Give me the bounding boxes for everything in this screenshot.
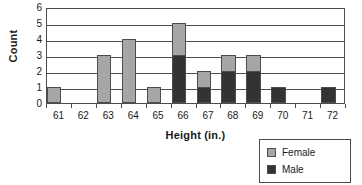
plot-area [46, 8, 345, 104]
bar-slot-62 [72, 9, 97, 103]
bar-slot-64 [122, 9, 147, 103]
x-tick-8 [245, 104, 246, 108]
x-tick-3 [121, 104, 122, 108]
x-axis-tick-labels: 616263646566676869707172 [46, 110, 345, 124]
histogram-chart: Count 0123456 616263646566676869707172 H… [0, 0, 362, 185]
y-tick-label-0: 0 [26, 99, 42, 109]
legend-item-female[interactable]: Female [267, 144, 350, 161]
chart-legend: FemaleMale [259, 139, 351, 183]
y-tick-label-4: 4 [26, 35, 42, 45]
bar-slot-63 [97, 9, 122, 103]
x-tick-12 [345, 104, 346, 108]
bar-segment-64-female [122, 39, 136, 103]
bar-segment-70-male [271, 87, 285, 103]
x-tick-2 [96, 104, 97, 108]
bar-68 [221, 55, 235, 103]
bar-slot-69 [246, 9, 271, 103]
x-tick-9 [270, 104, 271, 108]
bar-segment-69-male [246, 71, 260, 103]
bar-61 [47, 87, 61, 103]
x-tick-7 [220, 104, 221, 108]
bar-slot-70 [271, 9, 296, 103]
bar-segment-61-female [47, 87, 61, 103]
bar-segment-72-male [321, 87, 335, 103]
bar-66 [172, 23, 186, 103]
bar-63 [97, 55, 111, 103]
legend-item-male[interactable]: Male [267, 161, 350, 178]
bar-64 [122, 39, 136, 103]
bar-69 [246, 55, 260, 103]
bars-layer [47, 9, 344, 103]
y-axis-tick-labels: 0123456 [26, 8, 42, 104]
bar-slot-67 [197, 9, 222, 103]
y-tick-label-5: 5 [26, 19, 42, 29]
legend-swatch-female-icon [267, 148, 276, 157]
x-tick-1 [71, 104, 72, 108]
y-tick-label-3: 3 [26, 51, 42, 61]
bar-70 [271, 87, 285, 103]
bar-slot-61 [47, 9, 72, 103]
legend-label-male: Male [282, 164, 304, 175]
x-axis-ticks [46, 104, 345, 109]
x-tick-4 [146, 104, 147, 108]
x-tick-10 [295, 104, 296, 108]
bar-segment-66-female [172, 23, 186, 55]
x-tick-0 [46, 104, 47, 108]
bar-segment-67-female [197, 71, 211, 87]
y-tick-label-1: 1 [26, 83, 42, 93]
bar-slot-65 [147, 9, 172, 103]
bar-segment-66-male [172, 55, 186, 103]
bar-72 [321, 87, 335, 103]
bar-segment-65-female [147, 87, 161, 103]
bar-segment-63-female [97, 55, 111, 103]
bar-slot-71 [296, 9, 321, 103]
y-axis-title: Count [7, 11, 19, 81]
bar-segment-67-male [197, 87, 211, 103]
y-tick-label-2: 2 [26, 67, 42, 77]
legend-label-female: Female [282, 147, 315, 158]
bar-slot-72 [321, 9, 346, 103]
x-tick-label-72: 72 [318, 110, 348, 122]
legend-swatch-male-icon [267, 165, 276, 174]
bar-67 [197, 71, 211, 103]
bar-segment-69-female [246, 55, 260, 71]
x-tick-5 [171, 104, 172, 108]
bar-slot-68 [221, 9, 246, 103]
bar-65 [147, 87, 161, 103]
bar-slot-66 [172, 9, 197, 103]
x-tick-11 [320, 104, 321, 108]
bar-segment-68-female [221, 55, 235, 71]
y-tick-label-6: 6 [26, 3, 42, 13]
bar-segment-68-male [221, 71, 235, 103]
x-tick-6 [196, 104, 197, 108]
